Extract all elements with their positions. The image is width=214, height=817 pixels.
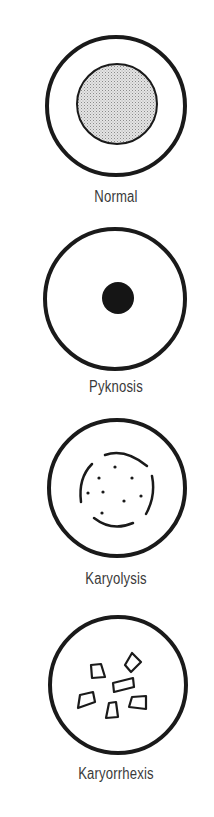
chromatin-dots [86,465,142,514]
panel-karyolysis [49,420,185,556]
nucleus-normal [77,64,157,144]
nucleus-membrane-fragment [80,464,92,502]
nucleus-pyknotic [102,282,134,314]
label-karyolysis: Karyolysis [21,570,211,588]
label-karyorrhexis: Karyorrhexis [21,765,211,783]
cell-death-diagram [0,0,214,817]
nuclear-fragment [91,664,105,678]
nuclear-fragment [113,678,134,692]
nucleus-membrane-fragment [94,518,133,527]
panel-normal [47,37,185,175]
panel-karyorrhexis [50,617,186,753]
label-pyknosis: Pyknosis [21,378,211,396]
nuclear-fragment [78,692,95,708]
label-normal: Normal [21,188,211,206]
nuclear-fragment [106,702,118,718]
cell-membrane-karyorrhexis [50,617,186,753]
panel-pyknosis [45,229,185,369]
nuclear-fragment [125,653,141,672]
nucleus-membrane-fragment [105,453,147,466]
nuclear-fragment [129,696,146,709]
nucleus-membrane-fragment [146,476,153,514]
cell-membrane-karyolysis [49,420,185,556]
